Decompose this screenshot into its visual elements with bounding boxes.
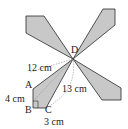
blade-top-right [73, 9, 115, 59]
label-bc-length: 3 cm [44, 116, 64, 127]
label-ab-length: 4 cm [5, 93, 25, 104]
label-d: D [71, 44, 78, 55]
label-b: B [25, 104, 32, 115]
label-c: C [45, 104, 52, 115]
pinwheel-diagram: D A B C 12 cm 4 cm 3 cm 13 cm [0, 0, 128, 129]
blade-top-left [26, 16, 73, 59]
label-ad-length: 12 cm [27, 62, 52, 73]
label-a: A [25, 79, 33, 90]
label-cd-length: 13 cm [62, 83, 87, 94]
